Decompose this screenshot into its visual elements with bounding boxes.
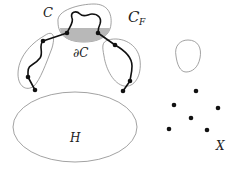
isolated-loop <box>176 40 201 72</box>
x-point-1 <box>194 89 199 94</box>
dot-left-loop-bottom <box>26 75 31 80</box>
label-c-f-subscript: F <box>138 17 146 27</box>
right-component-loop <box>103 39 141 86</box>
x-point-2 <box>172 103 177 108</box>
left-component-loop <box>18 33 54 88</box>
dot-h-right <box>121 89 126 94</box>
label-c: C <box>43 5 53 20</box>
label-x: X <box>215 139 225 153</box>
label-boundary-c: ∂C <box>73 46 88 60</box>
dot-right-loop-top <box>113 43 118 48</box>
dot-c-right <box>96 31 101 36</box>
x-point-6 <box>205 128 210 133</box>
diagram-canvas: C C F ∂C H X <box>0 0 240 171</box>
dot-h-left <box>33 88 38 93</box>
label-h: H <box>69 131 81 145</box>
left-path <box>28 33 67 90</box>
x-point-5 <box>167 127 172 132</box>
x-point-4 <box>189 116 194 121</box>
x-point-3 <box>216 106 221 111</box>
dot-right-loop-bottom <box>128 79 133 84</box>
dot-c-left <box>65 31 70 36</box>
region-h-ellipse <box>13 92 137 162</box>
dot-left-loop-top <box>41 39 46 44</box>
